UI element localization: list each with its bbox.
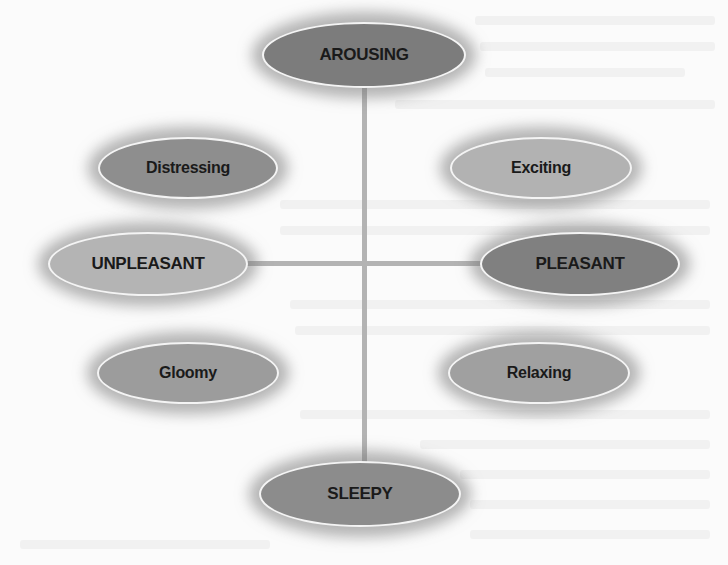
node-label: Relaxing [507, 364, 571, 382]
node-distressing: Distressing [98, 137, 278, 199]
node-label: Exciting [511, 159, 571, 177]
node-exciting: Exciting [450, 137, 632, 199]
node-label: UNPLEASANT [91, 254, 204, 274]
node-label: Gloomy [159, 364, 217, 382]
node-label: Distressing [146, 159, 230, 177]
node-arousing: AROUSING [262, 22, 466, 88]
node-relaxing: Relaxing [448, 342, 630, 404]
node-gloomy: Gloomy [97, 342, 279, 404]
node-label: AROUSING [319, 45, 408, 65]
node-pleasant: PLEASANT [480, 232, 680, 296]
node-label: PLEASANT [535, 254, 624, 274]
node-sleepy: SLEEPY [259, 461, 461, 527]
arousal-axis-vertical [362, 86, 367, 464]
node-unpleasant: UNPLEASANT [48, 232, 248, 296]
node-label: SLEEPY [327, 484, 392, 504]
valence-axis-horizontal [216, 261, 482, 266]
